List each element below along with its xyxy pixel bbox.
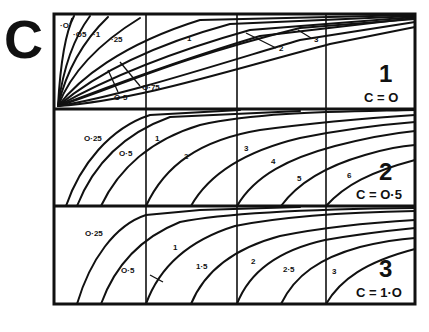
label-p1-01: ·1 [93, 30, 101, 39]
label-p3-025: O·25 [85, 229, 103, 238]
panel-3-equation: C = 1·O [356, 285, 402, 300]
label-p2-5: 5 [297, 174, 302, 183]
label-p2-4: 4 [271, 157, 276, 166]
label-p3-05: O·5 [121, 266, 135, 275]
label-p1-05: O·5 [114, 93, 128, 102]
label-p2-6: 6 [347, 171, 352, 180]
label-p2-2: 2 [184, 152, 189, 161]
label-p1-075: O·75 [142, 83, 160, 92]
label-p3-3: 3 [332, 267, 337, 276]
panel-1-number: 1 [379, 60, 392, 87]
label-p2-1: 1 [155, 134, 160, 143]
label-p3-15: 1·5 [196, 262, 208, 271]
label-p1-025: ·25 [111, 35, 123, 44]
label-p1-0: ·O [60, 21, 69, 30]
label-p1-3: 3 [314, 35, 319, 44]
curve-p2-05 [77, 111, 300, 206]
panel-3-number: 3 [379, 255, 392, 282]
figure-c: C [0, 0, 429, 332]
label-p3-1: 1 [173, 243, 178, 252]
outer-frame [54, 14, 415, 304]
label-p1-2: 2 [279, 44, 284, 53]
label-p2-3: 3 [244, 144, 249, 153]
label-p3-25: 2·5 [283, 265, 295, 274]
label-p3-2: 2 [251, 257, 256, 266]
label-p2-025: O·25 [84, 134, 102, 143]
figure-letter: C [4, 9, 43, 69]
panel-2-equation: C = O·5 [356, 187, 402, 202]
panel-1-equation: C = O [364, 90, 398, 105]
panel-2-number: 2 [379, 158, 392, 185]
label-p2-05: O·5 [119, 149, 133, 158]
label-p1-1: 1 [187, 34, 192, 43]
label-p1-005: ·O5 [73, 30, 87, 39]
